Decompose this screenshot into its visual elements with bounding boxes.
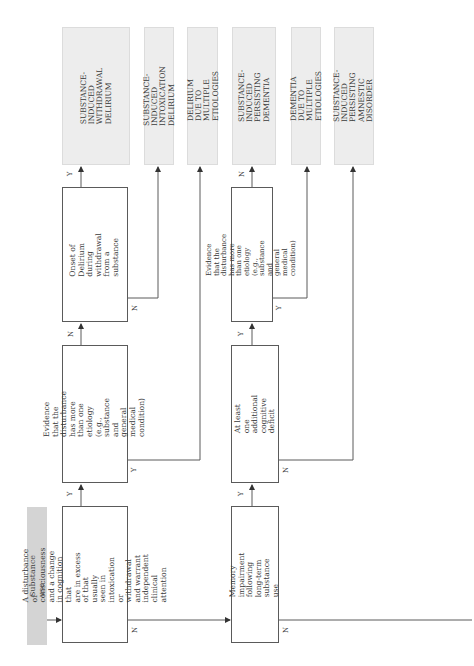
edge-label-yes: Y bbox=[130, 468, 138, 473]
decision-memory-impairment: Memory impairment following long-term su… bbox=[231, 506, 279, 643]
outcome-text: SUBSTANCE-INDUCED PERSISTING DEMENTIA bbox=[238, 70, 271, 122]
decision-evidence-multiple-etiology-delirium: Evidence that the disturbance has more t… bbox=[62, 345, 128, 483]
decision-text: At least one additional cognitive defici… bbox=[234, 395, 277, 434]
edge-label-no: N bbox=[282, 627, 290, 633]
decision-onset-during-withdrawal: Onset of Delirium during withdrawal from… bbox=[62, 187, 128, 322]
edge-label-no: N bbox=[131, 627, 139, 633]
decision-additional-cognitive-deficit: At least one additional cognitive defici… bbox=[231, 345, 279, 483]
edge-label-yes: Y bbox=[66, 172, 74, 177]
edge-label-no: N bbox=[67, 331, 75, 337]
decision-text: A disturbance of consciousness and a cha… bbox=[22, 547, 168, 602]
edge-label-yes: Y bbox=[275, 306, 283, 311]
decision-text: Evidence that the disturbance has more t… bbox=[43, 391, 146, 437]
outcome-delirium-multiple-etiologies: DELIRIUM DUE TO MULTIPLE ETIOLOGIES bbox=[187, 27, 218, 165]
decision-disturbance-of-consciousness: A disturbance of consciousness and a cha… bbox=[62, 506, 128, 643]
outcome-text: DEMENTIA DUE TO MULTIPLE ETIOLOGIES bbox=[290, 71, 323, 121]
outcome-text: SUBSTANCE-INDUCED WITHDRAWAL DELIRIUM bbox=[80, 68, 113, 124]
outcome-persisting-dementia: SUBSTANCE-INDUCED PERSISTING DEMENTIA bbox=[232, 27, 276, 165]
outcome-text: SUBSTANCE-INDUCED INTOXICATION DELIRIUM bbox=[143, 66, 176, 126]
outcome-text: DELIRIUM DUE TO MULTIPLE ETIOLOGIES bbox=[186, 71, 219, 121]
decision-text: Memory impairment following long-term su… bbox=[229, 552, 281, 597]
outcome-persisting-amnestic-disorder: SUBSTANCE-INDUCED PERSISTING AMNESTIC DI… bbox=[334, 27, 374, 165]
decision-text: Evidence that the disturbance has more t… bbox=[206, 233, 297, 275]
edge-label-no: N bbox=[238, 171, 246, 177]
outcome-withdrawal-delirium: SUBSTANCE-INDUCED WITHDRAWAL DELIRIUM bbox=[62, 27, 130, 165]
edge-label-no: N bbox=[131, 305, 139, 311]
outcome-text: SUBSTANCE-INDUCED PERSISTING AMNESTIC DI… bbox=[333, 70, 374, 122]
decision-evidence-multiple-etiology-dementia: Evidence that the disturbance has more t… bbox=[231, 187, 273, 322]
outcome-dementia-multiple-etiologies: DEMENTIA DUE TO MULTIPLE ETIOLOGIES bbox=[291, 27, 321, 165]
edge-label-yes: Y bbox=[66, 492, 74, 497]
outcome-intoxication-delirium: SUBSTANCE-INDUCED INTOXICATION DELIRIUM bbox=[144, 27, 174, 165]
edge-label-yes: Y bbox=[237, 492, 245, 497]
edge-label-yes: Y bbox=[237, 332, 245, 337]
decision-text: Onset of Delirium during withdrawal from… bbox=[69, 233, 121, 276]
edge-label-no: N bbox=[282, 467, 290, 473]
